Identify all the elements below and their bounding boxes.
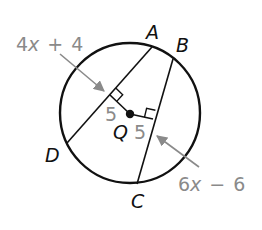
expr-bc-coef: 6 [178, 173, 190, 195]
expr-bc-const: 6 [233, 173, 245, 195]
label-length-ad: 4x+4 [16, 33, 83, 55]
label-distance-ad: 5 [105, 103, 117, 125]
expr-ad-const: 4 [71, 33, 83, 55]
label-point-a: A [144, 21, 159, 43]
circle-chord-diagram: A B C D Q 5 5 4x+4 6x−6 [0, 0, 262, 230]
expr-ad-op: + [47, 33, 63, 55]
center-point-q [126, 110, 134, 118]
label-point-d: D [45, 144, 60, 166]
expr-ad-var: x [27, 33, 40, 55]
expr-ad-coef: 4 [16, 33, 28, 55]
right-angle-marker-ad [116, 88, 123, 101]
label-point-c: C [131, 190, 145, 212]
right-angle-marker-bc [145, 108, 156, 117]
label-distance-bc: 5 [134, 121, 146, 143]
label-point-b: B [176, 34, 189, 56]
expr-bc-var: x [189, 173, 202, 195]
expr-bc-op: − [209, 173, 225, 195]
label-length-bc: 6x−6 [178, 173, 245, 195]
